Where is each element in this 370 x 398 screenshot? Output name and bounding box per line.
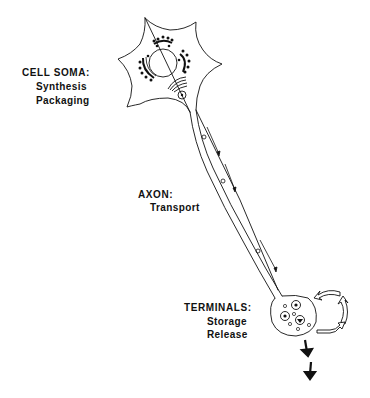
soma-label-line-1: Synthesis bbox=[36, 81, 87, 93]
synaptic-vesicles bbox=[281, 301, 311, 331]
axon-label-title: AXON: bbox=[138, 189, 173, 201]
release-arrows bbox=[302, 340, 315, 379]
axonal-transport-arrows bbox=[207, 127, 277, 272]
nucleus bbox=[149, 49, 177, 77]
terminals-label-line-2: Release bbox=[207, 329, 248, 341]
axon-label-line-1: Transport bbox=[150, 202, 200, 214]
golgi-apparatus bbox=[168, 77, 187, 92]
neuron-illustration bbox=[0, 0, 370, 398]
terminals-label-line-1: Storage bbox=[207, 316, 247, 328]
soma-label-title: CELL SOMA: bbox=[22, 67, 90, 79]
axon-vesicles bbox=[202, 135, 260, 253]
soma-vesicle bbox=[178, 91, 186, 99]
recycling-arrows bbox=[314, 291, 348, 333]
rough-er-right bbox=[178, 50, 191, 74]
rough-er-top bbox=[153, 36, 174, 48]
terminals-label-title: TERMINALS: bbox=[184, 302, 252, 314]
rough-er-left bbox=[139, 55, 157, 82]
soma-label-line-2: Packaging bbox=[36, 95, 90, 107]
neuron-diagram: CELL SOMA: Synthesis Packaging AXON: Tra… bbox=[0, 0, 370, 398]
